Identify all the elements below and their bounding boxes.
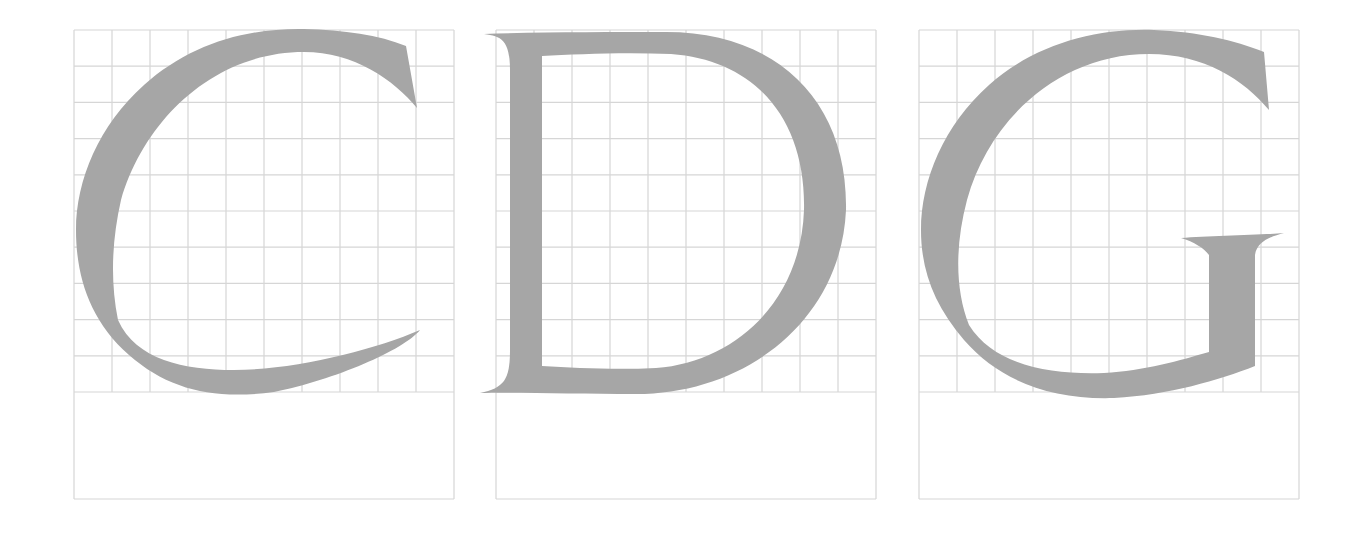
letter-grid-panel-g (919, 30, 1299, 499)
letter-g-glyph (919, 30, 1300, 500)
letter-c-glyph (74, 30, 455, 500)
letter-grid-panel-c (74, 30, 454, 499)
letter-d-glyph (496, 30, 877, 500)
letter-grid-panel-d (496, 30, 876, 499)
